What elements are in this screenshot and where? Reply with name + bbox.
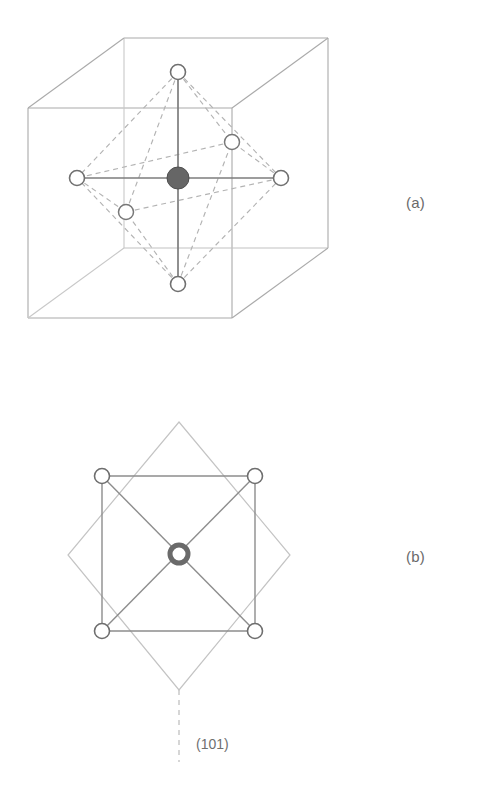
bond-front-right — [126, 178, 281, 212]
cube-edge-oblique-top-right — [232, 38, 328, 108]
bond-bottom-right — [178, 178, 281, 284]
bond-top-left — [77, 72, 178, 178]
panel-b-group — [68, 422, 290, 762]
corner-atom-bottom-left — [95, 624, 110, 639]
bond-right-back — [232, 142, 281, 178]
plane-index-label: (101) — [196, 736, 229, 752]
bond-top-front — [126, 72, 178, 212]
cube-edge-oblique-bottom-right — [232, 248, 328, 318]
central-atom-ring — [170, 545, 188, 563]
corner-atom-top-left — [95, 469, 110, 484]
central-atom-filled — [167, 167, 189, 189]
corner-atom-top-right — [248, 469, 263, 484]
panel-label-a: (a) — [406, 194, 425, 211]
cube-edge-oblique-top-left — [28, 38, 124, 108]
panel-label-b: (b) — [406, 548, 425, 565]
crystal-structure-figure — [0, 0, 487, 788]
bond-bottom-back — [178, 142, 232, 284]
bond-back-left — [77, 142, 232, 178]
ligand-atom-top — [171, 65, 186, 80]
cube-edge-oblique-bottom-left — [28, 248, 124, 318]
bond-top-back — [178, 72, 232, 142]
ligand-atom-front — [119, 205, 134, 220]
ligand-atom-bottom — [171, 277, 186, 292]
bond-bottom-left — [77, 178, 178, 284]
bond-left-front — [77, 178, 126, 212]
corner-atom-bottom-right — [248, 624, 263, 639]
panel-a-group — [28, 38, 328, 318]
ligand-atom-left — [70, 171, 85, 186]
ligand-atom-right — [274, 171, 289, 186]
figure-root: (a) (b) (101) — [0, 0, 487, 788]
bond-top-right — [178, 72, 281, 178]
ligand-atom-back — [225, 135, 240, 150]
